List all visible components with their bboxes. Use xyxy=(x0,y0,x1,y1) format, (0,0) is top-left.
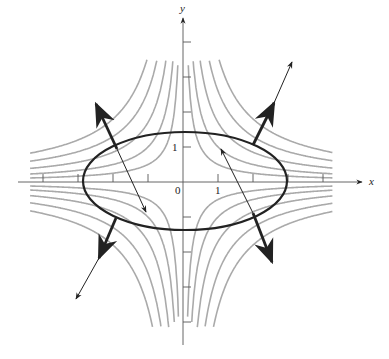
lower-left-thin-arrow xyxy=(76,258,99,299)
level-curve xyxy=(188,65,332,178)
level-curve xyxy=(214,212,333,327)
diagram-canvas: y x 0 1 1 xyxy=(0,0,389,359)
level-curve xyxy=(192,190,333,322)
level-curves xyxy=(30,60,332,327)
x-axis-label: x xyxy=(369,176,374,187)
level-curve xyxy=(30,211,152,327)
upper-left-thick-arrow xyxy=(96,104,117,149)
plot-area xyxy=(0,0,389,359)
x-tick-label: 1 xyxy=(215,185,221,196)
origin-label: 0 xyxy=(175,185,181,196)
y-axis-label: y xyxy=(180,3,185,14)
upper-right-thin-arrow xyxy=(274,62,292,103)
gradient-vectors xyxy=(76,62,292,299)
upper-right-thick-arrow xyxy=(253,103,274,145)
axes xyxy=(18,18,362,345)
y-tick-label: 1 xyxy=(172,142,178,153)
level-curve xyxy=(30,61,166,169)
lower-right-thick-arrow xyxy=(253,213,272,262)
level-curve xyxy=(30,61,157,162)
level-curve xyxy=(188,186,333,317)
level-curve xyxy=(205,203,332,326)
